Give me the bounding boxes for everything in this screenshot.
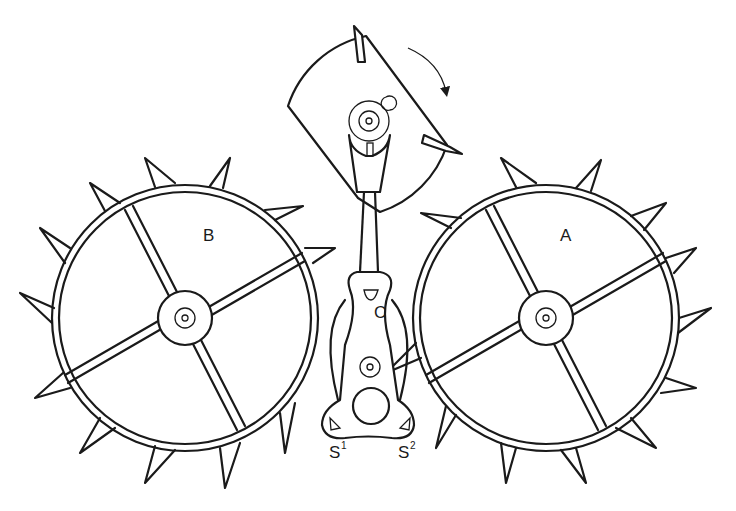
escapement-diagram: B A C S 1 S 2 bbox=[0, 0, 736, 511]
pallet-body bbox=[322, 272, 414, 438]
label-stone-s1-sup: 1 bbox=[341, 440, 347, 451]
wheel-b-hub bbox=[158, 291, 212, 345]
label-stone-s2-sup: 2 bbox=[410, 440, 416, 451]
label-wheel-b: B bbox=[203, 226, 214, 245]
label-stone-s1: S bbox=[329, 443, 340, 462]
label-wheel-a: A bbox=[560, 226, 572, 245]
label-pallet-c: C bbox=[374, 303, 386, 322]
escape-wheel-b bbox=[20, 158, 335, 488]
balance-assembly bbox=[288, 26, 462, 212]
label-stone-s2: S bbox=[398, 443, 409, 462]
wheel-a-hub bbox=[519, 291, 573, 345]
escape-wheel-a bbox=[386, 158, 711, 483]
rotation-arrow bbox=[408, 48, 446, 92]
pallet-lever bbox=[322, 272, 414, 438]
